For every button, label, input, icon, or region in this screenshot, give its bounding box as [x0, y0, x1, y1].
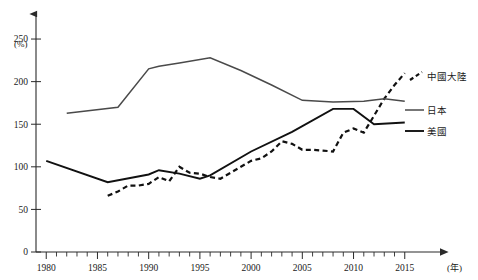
legend-swatch-0: [410, 72, 422, 80]
y-axis-ticks: 050100150200250: [14, 34, 41, 257]
legend-leader-lines: [405, 72, 424, 131]
axes: [36, 14, 442, 252]
x-tick-label: 1995: [190, 263, 209, 273]
x-tick-label: 2015: [395, 263, 414, 273]
y-tick-label: 200: [14, 77, 29, 87]
legend-label-2: 美國: [427, 124, 447, 138]
data-series-group: [46, 58, 405, 196]
line-chart-plot: 050100150200250 198019851990199520002005…: [0, 0, 478, 280]
x-tick-label: 2000: [242, 263, 261, 273]
x-tick-label: 1985: [88, 263, 107, 273]
series-line-0: [108, 73, 405, 196]
y-tick-label: 150: [14, 120, 29, 130]
x-axis-unit-label: (年): [447, 262, 462, 273]
x-axis-ticks: 19801985199019952000200520102015: [37, 252, 415, 273]
x-tick-label: 1990: [139, 263, 158, 273]
y-tick-label: 50: [19, 205, 29, 215]
chart-container: 050100150200250 198019851990199520002005…: [0, 0, 478, 280]
series-line-1: [67, 58, 405, 113]
legend-label-0: 中國大陸: [427, 69, 467, 83]
x-tick-label: 2010: [344, 263, 363, 273]
legend-label-1: 日本: [427, 103, 447, 117]
y-tick-label: 100: [14, 162, 29, 172]
y-tick-label: 0: [23, 247, 28, 257]
series-line-2: [46, 109, 405, 182]
x-tick-label: 2005: [293, 263, 312, 273]
x-tick-label: 1980: [37, 263, 56, 273]
y-axis-unit-label: (%): [14, 39, 28, 49]
